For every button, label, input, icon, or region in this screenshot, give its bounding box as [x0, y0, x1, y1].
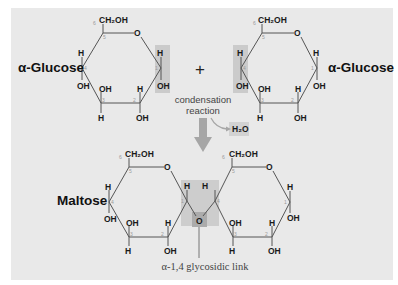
svg-text:5: 5 [262, 34, 265, 40]
svg-text:OH: OH [313, 81, 326, 91]
svg-text:3: 3 [130, 231, 133, 237]
maltose-label: Maltose [57, 193, 108, 208]
down-arrow-icon [194, 118, 212, 152]
svg-text:O: O [266, 162, 273, 172]
water-release-arrow [211, 118, 227, 129]
svg-text:H: H [257, 113, 263, 123]
svg-text:H: H [184, 181, 190, 191]
svg-text:H: H [165, 218, 171, 228]
svg-text:OH: OH [236, 81, 249, 91]
svg-text:4: 4 [111, 199, 114, 205]
svg-text:4: 4 [84, 65, 87, 71]
svg-text:OH: OH [126, 218, 139, 228]
svg-text:OH: OH [77, 81, 90, 91]
glycosidic-link-label: α-1,4 glycosidic link [162, 261, 250, 272]
svg-text:2: 2 [161, 231, 164, 237]
svg-text:5: 5 [103, 34, 106, 40]
svg-text:2: 2 [133, 97, 136, 103]
svg-text:5: 5 [129, 168, 132, 174]
svg-text:6: 6 [93, 20, 96, 26]
svg-text:O: O [294, 28, 301, 38]
left-glucose-molecule [82, 24, 161, 113]
svg-text:OH: OH [229, 218, 242, 228]
ch2oh-group: CH₂OH [99, 15, 128, 25]
svg-text:5: 5 [232, 168, 235, 174]
svg-text:OH: OH [294, 113, 307, 123]
svg-text:CH₂OH: CH₂OH [125, 149, 154, 159]
right-glucose-label: α-Glucose [328, 60, 395, 75]
right-glucose-molecule [241, 24, 317, 113]
maltose-formation-diagram: 6 CH₂OH 5 O H 1 OH H 4 OH OH 3 H H 2 OH … [0, 0, 398, 285]
svg-text:6: 6 [222, 154, 225, 160]
svg-text:1: 1 [181, 198, 184, 204]
svg-text:O: O [164, 162, 171, 172]
svg-text:CH₂OH: CH₂OH [229, 149, 258, 159]
svg-text:H: H [137, 84, 143, 94]
svg-text:H: H [98, 113, 104, 123]
water-byproduct: H₂O [232, 124, 249, 134]
svg-text:H: H [105, 182, 111, 192]
svg-text:H: H [237, 48, 243, 58]
right-glucose-labels: 6 CH₂OH 5 O H 1 OH H 4 OH OH 3 H H 2 OH [236, 15, 326, 123]
left-glucose-labels: 6 CH₂OH 5 O H 1 OH H 4 OH OH 3 H H 2 OH [77, 15, 170, 123]
svg-text:4: 4 [217, 198, 220, 204]
svg-text:3: 3 [261, 97, 264, 103]
reaction-line-1: condensation [175, 94, 232, 105]
svg-text:OH: OH [136, 113, 149, 123]
plus-sign: + [195, 60, 205, 79]
left-glucose-label: α-Glucose [18, 60, 85, 75]
svg-text:OH: OH [258, 84, 271, 94]
svg-text:H: H [313, 48, 319, 58]
svg-text:H: H [287, 182, 293, 192]
svg-text:2: 2 [291, 97, 294, 103]
svg-text:OH: OH [268, 246, 281, 256]
svg-text:3: 3 [102, 97, 105, 103]
svg-text:H: H [295, 84, 301, 94]
svg-text:H: H [202, 181, 208, 191]
svg-text:6: 6 [119, 154, 122, 160]
svg-text:H: H [229, 246, 235, 256]
svg-text:6: 6 [253, 20, 256, 26]
reaction-line-2: reaction [186, 105, 220, 116]
svg-text:H: H [78, 48, 84, 58]
svg-text:4: 4 [243, 65, 246, 71]
bridge-oxygen: O [196, 216, 203, 226]
svg-text:1: 1 [155, 65, 158, 71]
svg-text:H: H [125, 246, 131, 256]
svg-text:OH: OH [104, 214, 117, 224]
svg-text:1: 1 [311, 65, 314, 71]
svg-text:H: H [269, 218, 275, 228]
svg-text:OH: OH [157, 81, 170, 91]
svg-text:2: 2 [265, 231, 268, 237]
svg-text:H: H [157, 48, 163, 58]
svg-text:OH: OH [99, 84, 112, 94]
svg-text:OH: OH [287, 213, 300, 223]
svg-text:CH₂OH: CH₂OH [258, 15, 287, 25]
svg-text:1: 1 [284, 199, 287, 205]
svg-text:O: O [134, 28, 141, 38]
svg-text:3: 3 [234, 231, 237, 237]
svg-text:OH: OH [164, 246, 177, 256]
